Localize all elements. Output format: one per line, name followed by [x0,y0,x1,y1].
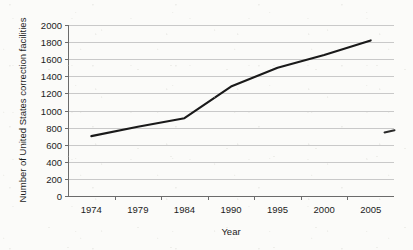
x-tick-label: 1995 [267,204,288,215]
y-tick-label: 1400 [41,71,62,82]
y-axis-title: Number of United States correction facil… [17,17,28,202]
y-tick-label: 1600 [41,54,62,65]
y-tick-label: 0 [57,191,62,202]
y-tick-label: 2000 [41,20,62,31]
x-tick-label: 2005 [360,204,381,215]
y-tick-label: 1200 [41,88,62,99]
x-tick-label: 1984 [174,204,195,215]
y-tick-group: 0200400600800100012001400160018002000 [41,20,68,202]
x-tick-label: 1990 [220,204,241,215]
y-tick-label: 800 [46,123,62,134]
scan-artifact-stub [385,130,395,132]
data-series-line [91,40,370,136]
y-tick-label: 1800 [41,37,62,48]
x-tick-label: 1974 [81,204,102,215]
y-tick-label: 200 [46,174,62,185]
x-tick-label: 2000 [314,204,335,215]
line-chart: 0200400600800100012001400160018002000 19… [0,0,413,250]
chart-figure: 0200400600800100012001400160018002000 19… [0,0,413,250]
y-tick-label: 600 [46,140,62,151]
y-tick-label: 1000 [41,106,62,117]
x-tick-group: 1974197919841990199520002005 [81,196,382,215]
x-axis-title: Year [221,226,240,237]
y-tick-label: 400 [46,157,62,168]
x-tick-label: 1979 [127,204,148,215]
